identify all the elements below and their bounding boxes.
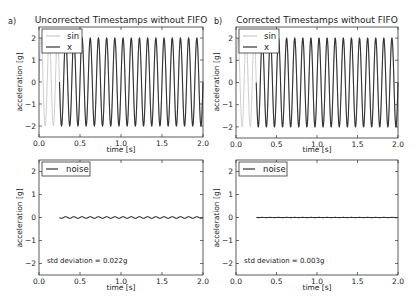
x-tick-label: 2.0 — [197, 277, 209, 286]
y-axis-label: acceleration [g] — [212, 188, 221, 247]
legend: noise — [42, 162, 90, 176]
legend-label-x: x — [264, 42, 269, 52]
x-tick-label: 0.5 — [74, 277, 86, 286]
plot-lines — [60, 217, 204, 219]
y-tick-label: −1 — [222, 236, 233, 245]
y-tick-label: 2 — [31, 34, 36, 43]
legend-label-noise: noise — [263, 164, 286, 174]
legend-label-sin: sin — [264, 31, 276, 41]
series-noise — [60, 217, 204, 219]
y-tick-label: 1 — [228, 190, 233, 199]
figure: a) Uncorrected Timestamps without FIFO 0… — [0, 0, 418, 306]
x-tick-label: 0.0 — [230, 277, 242, 286]
x-tick-label: 0.0 — [33, 139, 45, 148]
y-axis-label: acceleration [g] — [15, 52, 24, 111]
plot-title: Corrected Timestamps without FIFO — [236, 15, 398, 25]
panel-a: a) Uncorrected Timestamps without FIFO 0… — [8, 15, 209, 154]
y-tick-label: 0 — [31, 78, 36, 87]
panel-letter: b) — [214, 17, 222, 26]
x-axis-label: time [s] — [302, 283, 331, 292]
x-tick-label: 1.5 — [352, 277, 364, 286]
legend: sin x — [239, 29, 279, 53]
ticks: 0.00.51.01.52.0210−1−2 — [222, 160, 404, 286]
x-axis-label: time [s] — [302, 145, 331, 154]
x-tick-label: 2.0 — [197, 139, 209, 148]
x-tick-label: 0.5 — [271, 277, 283, 286]
y-tick-label: −1 — [25, 100, 36, 109]
std-deviation-annotation: std deviation = 0.003g — [244, 257, 324, 265]
plot-title: Uncorrected Timestamps without FIFO — [35, 15, 208, 25]
y-tick-label: 1 — [31, 56, 36, 65]
x-axis-label: time [s] — [106, 145, 135, 154]
panel-c: 0.00.51.01.52.0210−1−2 time [s] accelera… — [15, 160, 209, 292]
x-tick-label: 1.5 — [156, 139, 168, 148]
y-tick-label: −2 — [25, 122, 36, 131]
y-tick-label: −2 — [222, 259, 233, 268]
panel-letter: a) — [8, 17, 16, 26]
y-tick-label: −2 — [25, 259, 36, 268]
y-tick-label: 2 — [31, 167, 36, 176]
y-tick-label: −2 — [222, 123, 233, 132]
panel-d: 0.00.51.01.52.0210−1−2 time [s] accelera… — [212, 160, 404, 292]
x-tick-label: 0.5 — [74, 139, 86, 148]
x-axis-label: time [s] — [106, 283, 135, 292]
panel-b: b) Corrected Timestamps without FIFO 0.0… — [212, 15, 404, 154]
y-tick-label: −1 — [25, 236, 36, 245]
legend: noise — [239, 162, 287, 176]
ticks: 0.00.51.01.52.0210−1−2 — [25, 160, 209, 286]
legend-label-sin: sin — [67, 31, 79, 41]
y-tick-label: 0 — [31, 213, 36, 222]
legend-label-x: x — [67, 42, 72, 52]
x-tick-label: 2.0 — [392, 277, 404, 286]
std-deviation-annotation: std deviation = 0.022g — [47, 257, 127, 265]
y-tick-label: 0 — [228, 213, 233, 222]
y-tick-label: 2 — [228, 34, 233, 43]
x-tick-label: 1.5 — [352, 140, 364, 149]
y-tick-label: −1 — [222, 100, 233, 109]
x-tick-label: 0.5 — [271, 140, 283, 149]
legend: sin x — [42, 29, 82, 53]
y-tick-label: 0 — [228, 78, 233, 87]
x-tick-label: 2.0 — [392, 140, 404, 149]
legend-label-noise: noise — [66, 164, 89, 174]
y-tick-label: 2 — [228, 167, 233, 176]
x-tick-label: 1.5 — [156, 277, 168, 286]
x-tick-label: 0.0 — [33, 277, 45, 286]
y-tick-label: 1 — [228, 56, 233, 65]
y-tick-label: 1 — [31, 190, 36, 199]
y-axis-label: acceleration [g] — [212, 52, 221, 111]
y-axis-label: acceleration [g] — [15, 188, 24, 247]
x-tick-label: 0.0 — [230, 140, 242, 149]
